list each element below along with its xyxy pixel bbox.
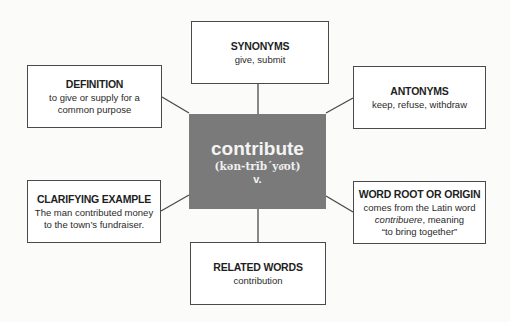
word-root-title: WORD ROOT OR ORIGIN xyxy=(359,188,481,200)
definition-box: DEFINITION to give or supply for a commo… xyxy=(27,65,162,128)
synonyms-title: SYNONYMS xyxy=(231,40,290,52)
connector-definition xyxy=(162,97,189,113)
clarifying-example-line-1: The man contributed money xyxy=(35,207,153,219)
related-words-title: RELATED WORDS xyxy=(213,261,302,273)
word-root-latin-word: contribuere xyxy=(375,214,423,225)
antonyms-title: ANTONYMS xyxy=(390,85,448,97)
word-root-line-1: comes from the Latin word xyxy=(364,202,476,214)
center-part-of-speech: v. xyxy=(253,173,261,186)
definition-line-2: common purpose xyxy=(58,104,131,116)
word-root-line-2-rest: , meaning xyxy=(422,214,464,225)
antonyms-text: keep, refuse, withdraw xyxy=(372,99,467,111)
clarifying-example-line-2: to the town’s fundraiser. xyxy=(44,219,144,231)
word-root-line-3: “to bring together” xyxy=(382,226,458,238)
center-word-box: contribute (kən-trĭb´yo͞ot) v. xyxy=(189,114,326,209)
connector-antonyms xyxy=(326,98,353,113)
word-root-line-2: contribuere, meaning xyxy=(375,214,464,226)
synonyms-box: SYNONYMS give, submit xyxy=(191,21,329,84)
definition-title: DEFINITION xyxy=(66,78,124,90)
synonyms-text: give, submit xyxy=(235,54,286,66)
connector-word-root xyxy=(326,196,353,212)
center-pronunciation: (kən-trĭb´yo͞ot) xyxy=(214,160,300,173)
antonyms-box: ANTONYMS keep, refuse, withdraw xyxy=(353,66,486,129)
connector-clarifying xyxy=(161,195,189,211)
definition-line-1: to give or supply for a xyxy=(49,92,140,104)
related-words-text: contribution xyxy=(233,275,282,287)
related-words-box: RELATED WORDS contribution xyxy=(190,242,326,305)
word-root-box: WORD ROOT OR ORIGIN comes from the Latin… xyxy=(353,181,486,244)
clarifying-example-title: CLARIFYING EXAMPLE xyxy=(37,193,151,205)
center-word: contribute xyxy=(211,138,304,160)
clarifying-example-box: CLARIFYING EXAMPLE The man contributed m… xyxy=(27,180,161,243)
